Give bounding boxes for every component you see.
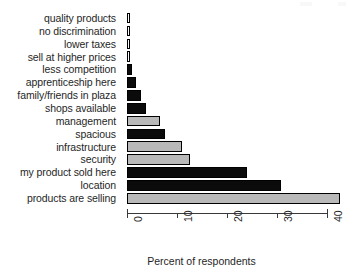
bar	[127, 64, 132, 75]
x-tick-label: 10	[182, 210, 194, 222]
bar	[127, 51, 130, 62]
category-label: family/friends in plaza	[0, 89, 122, 102]
x-tick-label: 30	[282, 210, 294, 222]
x-tick-label: 20	[232, 210, 244, 222]
category-label: infrastructure	[0, 141, 122, 154]
bar	[127, 141, 182, 152]
bar	[127, 154, 190, 165]
bar-chart: quality productsno discriminationlower t…	[0, 0, 355, 277]
bar	[127, 116, 160, 127]
category-label: shops available	[0, 102, 122, 115]
bar-row	[127, 38, 340, 51]
bar-row	[127, 63, 340, 76]
axis-end-cap	[327, 209, 328, 214]
category-label: my product sold here	[0, 166, 122, 179]
x-tick-mark	[127, 213, 128, 218]
bar	[127, 26, 130, 37]
bar-row	[127, 166, 340, 179]
bar	[127, 77, 136, 88]
bar-row	[127, 102, 340, 115]
bar-row	[127, 153, 340, 166]
bar-row	[127, 25, 340, 38]
plot-area	[127, 12, 340, 207]
category-label: location	[0, 179, 122, 192]
x-axis-title: Percent of respondents	[0, 255, 355, 267]
category-label: sell at higher prices	[0, 51, 122, 64]
scan-artifact	[338, 2, 346, 6]
scan-artifact	[300, 2, 312, 6]
category-label: management	[0, 115, 122, 128]
bar-row	[127, 12, 340, 25]
bar	[127, 13, 130, 24]
category-label: apprenticeship here	[0, 76, 122, 89]
category-label: quality products	[0, 12, 122, 25]
category-label: products are selling	[0, 192, 122, 205]
bar	[127, 193, 340, 204]
x-tick-label: 40	[332, 210, 344, 222]
category-label: lower taxes	[0, 38, 122, 51]
x-tick-mark	[227, 213, 228, 218]
category-label: less competition	[0, 63, 122, 76]
bar	[127, 103, 146, 114]
x-tick-mark	[277, 213, 278, 218]
category-axis-labels: quality productsno discriminationlower t…	[0, 12, 122, 205]
bar	[127, 129, 165, 140]
bar-row	[127, 141, 340, 154]
bar	[127, 90, 141, 101]
bar-row	[127, 76, 340, 89]
bar-row	[127, 192, 340, 205]
bar-row	[127, 115, 340, 128]
axis-end-cap	[127, 209, 128, 214]
category-label: security	[0, 153, 122, 166]
bar	[127, 180, 281, 191]
bar	[127, 167, 247, 178]
x-tick-label: 0	[132, 216, 144, 222]
bar-row	[127, 128, 340, 141]
bar-row	[127, 89, 340, 102]
bar-row	[127, 51, 340, 64]
category-label: no discrimination	[0, 25, 122, 38]
category-label: spacious	[0, 128, 122, 141]
bar-row	[127, 179, 340, 192]
x-tick-mark	[177, 213, 178, 218]
x-tick-mark	[327, 213, 328, 218]
bar	[127, 39, 130, 50]
